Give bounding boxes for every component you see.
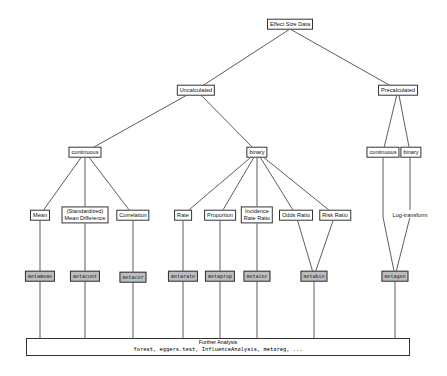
node-pre-continuous: continuous [366, 147, 399, 158]
further-analysis-title: Further Analysis [27, 339, 409, 346]
log-transform-label: Log-transform [393, 212, 428, 218]
node-label: Risk Ratio [322, 212, 348, 218]
fn-metacont: metacont [70, 271, 100, 282]
node-label: Uncalculated [180, 87, 212, 93]
node-label: Mean [33, 212, 47, 218]
node-label: metainc [246, 273, 267, 279]
fn-metagen: metagen [381, 271, 408, 282]
node-label-line1: Incidence [245, 208, 269, 214]
further-analysis-box: Further Analysis forest, eggers.test, In… [26, 338, 410, 356]
node-label: Proportion [207, 212, 233, 218]
node-label: metarate [171, 273, 195, 279]
node-label-line2: Rate Ratio [244, 215, 270, 221]
fn-metabin: metabin [300, 271, 327, 282]
fn-metaprop: metaprop [205, 271, 235, 282]
node-label: binary [249, 149, 264, 155]
node-precalculated: Precalculated [378, 85, 418, 96]
node-label: metaprop [208, 273, 232, 279]
fn-metacor: metacor [119, 272, 146, 283]
node-label: Odds Ratio [282, 212, 310, 218]
node-label: Rate [177, 212, 189, 218]
node-label: metacont [73, 273, 97, 279]
node-continuous: continuous [68, 147, 101, 158]
node-label: Precalculated [381, 87, 415, 93]
node-odds-ratio: Odds Ratio [279, 210, 313, 221]
node-rate: Rate [174, 210, 192, 221]
node-smd: (Standardized)Mean Difference [62, 206, 109, 223]
node-label: metamean [28, 273, 52, 279]
fn-metarate: metarate [168, 271, 198, 282]
node-mean: Mean [30, 210, 50, 221]
node-pre-binary: binary [400, 147, 421, 158]
node-label: continuous [369, 149, 396, 155]
fn-metamean: metamean [25, 271, 55, 282]
node-label: metagen [384, 273, 405, 279]
diagram-edges [0, 0, 447, 376]
node-label: Effect Size Data [270, 21, 310, 27]
node-proportion: Proportion [204, 210, 236, 221]
node-uncalculated: Uncalculated [177, 85, 215, 96]
node-label: binary [403, 149, 418, 155]
fn-metainc: metainc [243, 271, 270, 282]
node-label-line2: Mean Difference [65, 215, 106, 221]
node-binary: binary [246, 147, 267, 158]
node-label-line1: (Standardized) [67, 208, 104, 214]
further-analysis-functions: forest, eggers.test, InfluenceAnalysis, … [27, 346, 409, 352]
node-risk-ratio: Risk Ratio [319, 210, 351, 221]
node-label: metacor [122, 274, 143, 280]
node-correlation: Correlation [116, 210, 149, 221]
node-incidence-rate-ratio: IncidenceRate Ratio [241, 206, 273, 223]
node-label: Correlation [119, 212, 146, 218]
node-label: metabin [303, 273, 324, 279]
node-label: continuous [71, 149, 98, 155]
node-effect-size-data: Effect Size Data [267, 19, 313, 30]
